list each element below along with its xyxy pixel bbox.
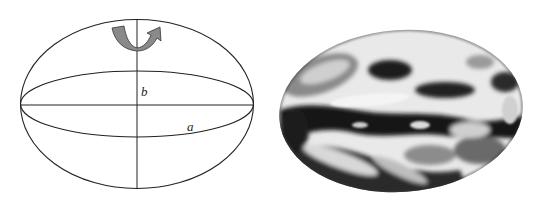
label-a: a	[187, 119, 194, 134]
earth-svg	[270, 0, 540, 208]
earth-image	[270, 0, 540, 208]
ellipsoid-svg: b a	[0, 0, 270, 208]
ellipsoid-diagram: b a	[0, 0, 270, 208]
label-b: b	[141, 84, 148, 99]
earth-globe	[270, 0, 540, 208]
